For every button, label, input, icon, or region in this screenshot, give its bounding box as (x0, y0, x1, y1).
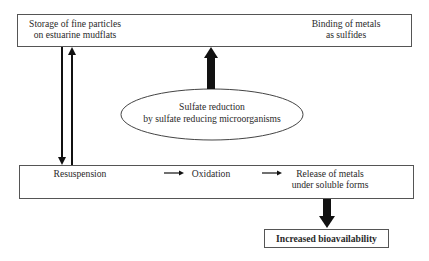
down-arrow-icon (58, 47, 66, 165)
right-arrow-icon (164, 171, 184, 176)
diagram-connectors (0, 0, 429, 261)
sulfate-reduction-line1: Sulfate reduction (132, 101, 292, 112)
sulfate-reduction-line2: by sulfate reducing microorganisms (122, 113, 302, 124)
thick-up-arrow-icon (204, 47, 218, 89)
thick-down-arrow-icon (319, 199, 335, 228)
up-arrow-icon (68, 47, 76, 165)
right-arrow-icon (262, 171, 282, 176)
